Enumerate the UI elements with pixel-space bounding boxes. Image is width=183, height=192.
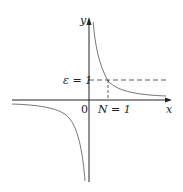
n-label: N = 1 [97,103,131,116]
x-axis-label: x [166,103,173,116]
epsilon-label: ε = 1 [63,74,92,87]
x-axis-arrow-icon [165,98,172,103]
origin-label: 0 [81,103,88,116]
y-axis-arrow-icon [87,17,92,25]
y-axis-label: y [79,14,87,27]
graph-diagram: y x 0 ε = 1 N = 1 [0,0,183,192]
curve-positive-branch [93,22,166,96]
curve-negative-branch [12,104,85,181]
